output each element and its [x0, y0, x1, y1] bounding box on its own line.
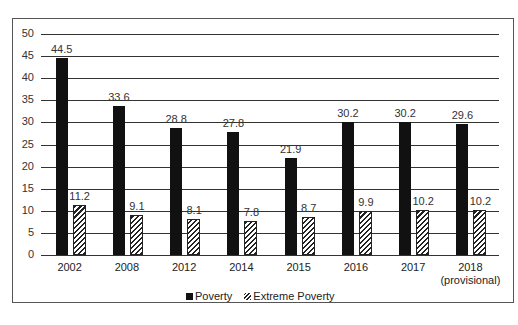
bar-poverty: [456, 124, 468, 255]
gridline: [41, 145, 499, 146]
gridline: [41, 211, 499, 212]
value-label-extreme-poverty: 10.2: [405, 195, 441, 207]
gridline: [41, 122, 499, 123]
y-tick-label: 0: [13, 248, 34, 260]
value-label-poverty: 21.9: [273, 143, 309, 155]
bar-poverty: [227, 132, 239, 255]
gridline: [41, 34, 499, 35]
chart-frame: 0510152025303540455044.511.2200233.69.12…: [12, 18, 514, 303]
value-label-extreme-poverty: 8.7: [291, 202, 327, 214]
bar-extreme-poverty: [187, 219, 200, 255]
y-tick-label: 35: [13, 93, 34, 105]
bar-extreme-poverty: [73, 205, 86, 255]
gridline: [41, 56, 499, 57]
bar-poverty: [170, 128, 182, 255]
legend-label-poverty: Poverty: [195, 290, 232, 302]
bar-extreme-poverty: [302, 217, 315, 255]
value-label-extreme-poverty: 9.9: [348, 196, 384, 208]
y-tick-label: 15: [13, 182, 34, 194]
bar-extreme-poverty: [416, 210, 429, 255]
y-tick-label: 40: [13, 71, 34, 83]
extreme-poverty-swatch-icon: [244, 293, 251, 300]
value-label-extreme-poverty: 10.2: [462, 195, 498, 207]
legend: Poverty Extreme Poverty: [186, 290, 335, 302]
x-tick-label-line2: (provisional): [430, 274, 510, 287]
x-tick-label: 2018(provisional): [430, 261, 510, 287]
bar-poverty: [342, 122, 354, 255]
poverty-swatch-icon: [186, 293, 193, 300]
value-label-poverty: 29.6: [444, 109, 480, 121]
bar-extreme-poverty: [244, 221, 257, 255]
bar-extreme-poverty: [130, 215, 143, 255]
value-label-poverty: 27.8: [215, 117, 251, 129]
legend-label-extreme-poverty: Extreme Poverty: [253, 290, 334, 302]
gridline: [41, 167, 499, 168]
y-tick-label: 20: [13, 160, 34, 172]
bar-poverty: [113, 106, 125, 255]
legend-item-extreme-poverty: Extreme Poverty: [244, 290, 334, 302]
value-label-extreme-poverty: 8.1: [176, 204, 212, 216]
bar-extreme-poverty: [359, 211, 372, 255]
y-tick-label: 50: [13, 27, 34, 39]
bar-poverty: [399, 122, 411, 255]
legend-item-poverty: Poverty: [186, 290, 232, 302]
y-tick-label: 45: [13, 49, 34, 61]
gridline: [41, 233, 499, 234]
bar-poverty: [56, 58, 68, 255]
value-label-poverty: 30.2: [387, 107, 423, 119]
value-label-extreme-poverty: 11.2: [62, 190, 98, 202]
y-tick-label: 25: [13, 138, 34, 150]
x-tick-label-line1: 2018: [430, 261, 510, 274]
y-tick-label: 10: [13, 204, 34, 216]
value-label-poverty: 28.8: [158, 113, 194, 125]
y-tick-label: 30: [13, 115, 34, 127]
y-tick-label: 5: [13, 226, 34, 238]
gridline: [41, 189, 499, 190]
value-label-poverty: 33.6: [101, 91, 137, 103]
value-label-extreme-poverty: 7.8: [233, 206, 269, 218]
gridline: [41, 78, 499, 79]
value-label-poverty: 30.2: [330, 107, 366, 119]
gridline: [41, 255, 499, 256]
bar-extreme-poverty: [473, 210, 486, 255]
value-label-poverty: 44.5: [44, 43, 80, 55]
value-label-extreme-poverty: 9.1: [119, 200, 155, 212]
